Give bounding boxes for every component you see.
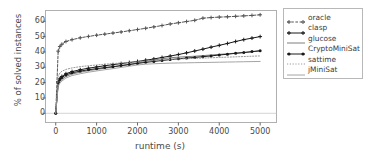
legend-label: jMiniSat (306, 65, 337, 74)
legend-item-clasp[interactable]: clasp (286, 23, 359, 34)
series-jminisat (56, 61, 260, 113)
legend-swatch-icon (286, 23, 306, 33)
series-oracle (56, 13, 262, 113)
legend-swatch-icon (286, 54, 306, 64)
legend-swatch-icon (286, 44, 306, 54)
legend: oracleclaspglucoseCryptoMiniSatsattimejM… (283, 8, 363, 79)
series-clasp (56, 35, 262, 114)
legend-label: glucose (306, 34, 336, 43)
legend-item-cryptominisat[interactable]: CryptoMiniSat (286, 44, 359, 55)
legend-label: oracle (306, 13, 331, 22)
legend-swatch-icon (286, 65, 306, 75)
series-sattime (56, 56, 260, 113)
legend-label: CryptoMiniSat (306, 44, 360, 53)
legend-item-oracle[interactable]: oracle (286, 12, 359, 23)
legend-item-glucose[interactable]: glucose (286, 33, 359, 44)
legend-swatch-icon (286, 33, 306, 43)
legend-item-sattime[interactable]: sattime (286, 54, 359, 65)
legend-label: sattime (306, 55, 336, 64)
legend-label: clasp (306, 23, 327, 32)
chart-figure: % of solved instances 0102030405060 0100… (0, 0, 367, 163)
data-series-group (54, 13, 262, 115)
legend-swatch-icon (286, 12, 306, 22)
legend-item-jminisat[interactable]: jMiniSat (286, 65, 359, 76)
